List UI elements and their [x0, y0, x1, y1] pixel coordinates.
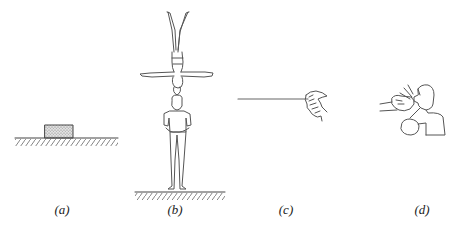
panel-label-a: (a): [54, 202, 69, 218]
ground-hatch: [135, 193, 225, 200]
block: [45, 125, 73, 138]
figure-panels: (a) (b) (c) (d): [0, 0, 454, 242]
ground-hatch: [15, 139, 118, 146]
panel-d-boxer: [380, 85, 445, 135]
panel-b-acrobat: [135, 12, 225, 200]
panel-label-b: (b): [167, 202, 182, 218]
panel-c-hand-rope: [238, 91, 327, 121]
panel-a-block-on-ground: [15, 125, 118, 146]
panel-label-c: (c): [279, 202, 293, 218]
hand: [305, 91, 327, 121]
panel-label-d: (d): [414, 202, 429, 218]
